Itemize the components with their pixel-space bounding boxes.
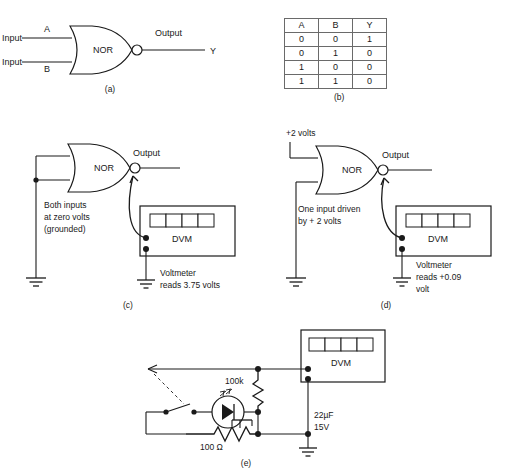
panel-a-gate-label: NOR (93, 45, 114, 55)
panel-e-capacitor-line1: 22µF (314, 410, 334, 420)
panel-c-inversion-bubble (130, 163, 140, 173)
cell-b: 0 (319, 61, 353, 75)
table-header-y: Y (353, 19, 387, 33)
panel-e-resistor-100k (253, 369, 263, 412)
panel-a-output-name: Y (210, 46, 216, 56)
panel-d-reading-line1: Voltmeter (416, 260, 452, 270)
panel-e-dvm-digit (325, 338, 341, 351)
cell-y: 0 (353, 61, 387, 75)
panel-d-dvm-digit (454, 214, 470, 227)
panel-a-input-b-name: B (44, 64, 50, 74)
panel-c-probe-lead (129, 176, 146, 238)
panel-b: A B Y 0 0 1 0 1 0 1 0 0 1 1 0 (284, 18, 387, 89)
panel-e-dvm-digit (309, 338, 325, 351)
panel-e-dvm-digit (357, 338, 373, 351)
panel-d-reading-line2: reads +0.09 (416, 272, 461, 282)
cell-y: 0 (353, 47, 387, 61)
panel-d-gate-label: NOR (342, 165, 363, 175)
table-row: 0 0 1 (285, 33, 387, 47)
panel-e-capacitor-line2: 15V (314, 422, 329, 432)
panel-d-dvm-digit (406, 214, 422, 227)
cell-a: 0 (285, 33, 319, 47)
panel-e: DVM 100 Ω 100k (128, 322, 388, 472)
panel-a-output-label: Output (155, 28, 183, 38)
panel-c-dvm-label: DVM (172, 234, 192, 244)
panel-c-note-line1: Both inputs (44, 200, 87, 210)
panel-c-reading-line1: Voltmeter (160, 268, 196, 278)
panel-d-output-label: Output (382, 150, 410, 160)
panel-e-actuator-dashed-link (154, 374, 184, 404)
panel-c-note-line2: at zero volts (44, 212, 90, 222)
table-row: 1 1 0 (285, 75, 387, 89)
panel-c-dvm-digit (150, 214, 166, 227)
panel-d-inversion-bubble (378, 165, 388, 175)
panel-a-input-a-name: A (44, 24, 50, 34)
cell-y: 1 (353, 33, 387, 47)
panel-d-dvm-digit (422, 214, 438, 227)
cell-a: 0 (285, 47, 319, 61)
panel-d-probe-terminal-positive (399, 235, 405, 241)
panel-c-probe-terminal-positive (143, 235, 149, 241)
panel-d-note-line1: One input driven (298, 204, 361, 214)
panel-c: NOR Output DVM Both inputs at zero volts… (0, 128, 255, 313)
table-row: 0 1 0 (285, 47, 387, 61)
panel-e-resistor-bottom-label: 100 Ω (200, 442, 223, 452)
panel-d-reading-line3: volt (416, 284, 430, 294)
panel-e-dvm-digit (341, 338, 357, 351)
table-header-a: A (285, 19, 319, 33)
cell-b: 1 (319, 47, 353, 61)
panel-a-input2-label: Input (2, 57, 23, 67)
panel-e-led-anode-triangle (222, 404, 234, 420)
truth-table: A B Y 0 0 1 0 1 0 1 0 0 1 1 0 (284, 18, 387, 89)
cell-y: 0 (353, 75, 387, 89)
panel-a-input1-label: Input (2, 33, 23, 43)
cell-b: 0 (319, 33, 353, 47)
panel-e-caption: (e) (241, 458, 252, 468)
panel-e-resistor-top-label: 100k (225, 376, 244, 386)
figure-sheet: Input Input A B NOR Output Y (a) A B Y 0… (0, 0, 511, 472)
panel-c-junction-dot (33, 177, 38, 182)
cell-a: 1 (285, 75, 319, 89)
panel-c-reading-line2: reads 3.75 volts (160, 280, 220, 290)
panel-e-dvm-label: DVM (331, 358, 351, 368)
panel-d-note-line2: by + 2 volts (298, 216, 341, 226)
panel-a-caption: (a) (105, 84, 116, 94)
panel-d: +2 volts NOR Output DVM One input driven (256, 118, 511, 313)
panel-c-gate-label: NOR (94, 163, 115, 173)
panel-d-dvm-digit (438, 214, 454, 227)
panel-d-caption: (d) (381, 300, 392, 310)
panel-e-led-emission-arrow-1 (220, 391, 226, 396)
panel-d-dvm-label: DVM (428, 234, 448, 244)
panel-e-switch-blade (166, 404, 190, 412)
panel-e-resistor-100-ohm (186, 427, 258, 441)
panel-b-caption: (b) (334, 92, 344, 102)
panel-d-supply-label: +2 volts (286, 128, 316, 138)
panel-e-led-emission-arrow-2 (226, 389, 232, 394)
table-row: 1 0 0 (285, 61, 387, 75)
panel-c-dvm-digit (182, 214, 198, 227)
table-header-b: B (319, 19, 353, 33)
panel-c-dvm-digit (198, 214, 214, 227)
panel-c-output-label: Output (133, 148, 161, 158)
panel-c-note-line3: (grounded) (44, 224, 86, 234)
cell-b: 1 (319, 75, 353, 89)
panel-c-caption: (c) (123, 300, 133, 310)
panel-a: Input Input A B NOR Output Y (a) (0, 0, 250, 110)
table-header-row: A B Y (285, 19, 387, 33)
panel-d-probe-lead (382, 178, 402, 238)
panel-c-dvm-digit (166, 214, 182, 227)
panel-d-probe-arrowhead (381, 178, 389, 185)
cell-a: 1 (285, 61, 319, 75)
panel-a-inversion-bubble (132, 45, 142, 55)
